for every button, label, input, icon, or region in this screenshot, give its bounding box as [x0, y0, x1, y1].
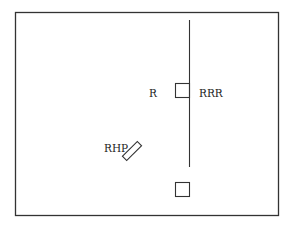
square-lower: [176, 183, 190, 197]
diagram-canvas: R RRR RHP: [0, 0, 293, 225]
label-rrr: RRR: [199, 87, 224, 99]
diagram-frame: [16, 13, 279, 216]
label-r: R: [149, 87, 158, 99]
square-upper: [176, 84, 190, 98]
label-rhp: RHP: [104, 142, 128, 154]
